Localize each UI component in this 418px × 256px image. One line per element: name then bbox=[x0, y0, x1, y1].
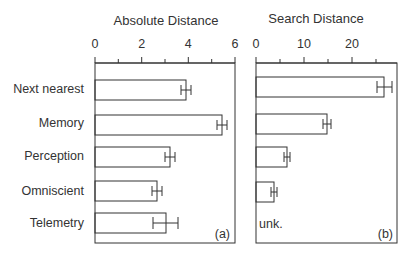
tick-label: 2 bbox=[138, 37, 145, 51]
tick-label: 6 bbox=[232, 37, 239, 51]
category-labels: Next nearest Memory Perception Omniscien… bbox=[13, 82, 85, 230]
category-label: Telemetry bbox=[30, 216, 85, 230]
panel-b-tick-labels: 0 10 20 bbox=[253, 37, 359, 51]
category-label: Memory bbox=[39, 116, 85, 130]
bar-perception bbox=[256, 147, 287, 167]
panel-b-label: (b) bbox=[378, 227, 393, 241]
tick-label: 0 bbox=[253, 37, 260, 51]
panel-b-title: Search Distance bbox=[268, 11, 363, 26]
panel-a-title: Absolute Distance bbox=[114, 13, 219, 28]
category-label: Perception bbox=[24, 149, 84, 163]
panel-a: 0 2 4 6 (a) bbox=[92, 37, 239, 243]
bar-perception bbox=[95, 147, 170, 167]
bar-next-nearest bbox=[256, 77, 384, 97]
category-label: Next nearest bbox=[13, 82, 84, 96]
chart-figure: Absolute Distance Search Distance Next n… bbox=[0, 0, 418, 256]
panel-a-tick-labels: 0 2 4 6 bbox=[92, 37, 239, 51]
tick-label: 0 bbox=[92, 37, 99, 51]
panel-b: 0 10 20 unk. (b) bbox=[253, 37, 397, 243]
bar-memory bbox=[256, 114, 327, 134]
panel-a-label: (a) bbox=[215, 227, 230, 241]
plot-frame bbox=[256, 63, 397, 243]
category-label: Omniscient bbox=[21, 184, 84, 198]
bar-memory bbox=[95, 115, 222, 135]
tick-label: 20 bbox=[345, 37, 359, 51]
bar-omniscient bbox=[95, 181, 157, 201]
tick-label: 10 bbox=[297, 37, 311, 51]
tick-label: 4 bbox=[185, 37, 192, 51]
bar-next-nearest bbox=[95, 80, 186, 100]
telemetry-unknown-label: unk. bbox=[259, 217, 283, 231]
